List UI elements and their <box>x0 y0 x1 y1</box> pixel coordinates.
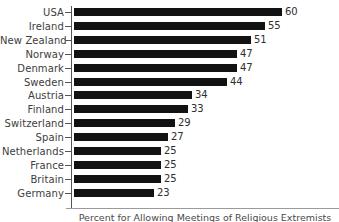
bar <box>74 189 154 197</box>
category-label: Denmark <box>0 62 64 75</box>
axis-tick <box>65 12 71 13</box>
bar <box>74 64 237 72</box>
bar-value-label: 25 <box>164 173 177 186</box>
bar-row: USA60 <box>0 6 339 19</box>
bar-value-label: 34 <box>195 89 208 102</box>
bar-value-label: 33 <box>191 103 204 116</box>
axis-tick <box>65 40 71 41</box>
plot-area: USA60Ireland55New Zealand51Norway47Denma… <box>0 0 339 207</box>
category-label: Austria <box>0 89 64 102</box>
axis-tick <box>65 109 71 110</box>
bar-row: Netherlands25 <box>0 145 339 158</box>
bar <box>74 78 227 86</box>
bar <box>74 133 168 141</box>
bar <box>74 161 161 169</box>
category-label: Germany <box>0 187 64 200</box>
bar-value-label: 55 <box>268 20 281 33</box>
bar-value-label: 51 <box>254 34 267 47</box>
category-label: Switzerland <box>0 117 64 130</box>
axis-tick <box>65 137 71 138</box>
bar-value-label: 25 <box>164 159 177 172</box>
axis-tick <box>65 82 71 83</box>
bar-value-label: 23 <box>157 187 170 200</box>
bar-value-label: 29 <box>178 117 191 130</box>
axis-bottom-rule <box>66 208 339 209</box>
category-label: Norway <box>0 48 64 61</box>
bar-row: Ireland55 <box>0 20 339 33</box>
axis-tick <box>65 165 71 166</box>
bar-row: Germany23 <box>0 187 339 200</box>
bar-row: New Zealand51 <box>0 34 339 47</box>
axis-tick <box>65 123 71 124</box>
chart-caption: Percent for Allowing Meetings of Religio… <box>71 211 339 222</box>
bar-value-label: 25 <box>164 145 177 158</box>
bar-row: Switzerland29 <box>0 117 339 130</box>
bar <box>74 105 188 113</box>
category-label: Spain <box>0 131 64 144</box>
axis-tick <box>65 179 71 180</box>
bar-row: Britain25 <box>0 173 339 186</box>
bar-value-label: 60 <box>285 6 298 19</box>
category-label: France <box>0 159 64 172</box>
axis-tick <box>65 26 71 27</box>
category-label: Britain <box>0 173 64 186</box>
bar <box>74 91 192 99</box>
bar-chart: USA60Ireland55New Zealand51Norway47Denma… <box>0 0 339 222</box>
bar-row: France25 <box>0 159 339 172</box>
category-label: Netherlands <box>0 145 64 158</box>
bar-value-label: 27 <box>171 131 184 144</box>
category-label: Ireland <box>0 20 64 33</box>
axis-tick <box>65 193 71 194</box>
category-label: Finland <box>0 103 64 116</box>
bar-value-label: 47 <box>240 62 253 75</box>
bar-value-label: 47 <box>240 48 253 61</box>
axis-tick <box>65 95 71 96</box>
bar-row: Sweden44 <box>0 76 339 89</box>
bar <box>74 22 265 30</box>
bar <box>74 175 161 183</box>
category-label: USA <box>0 6 64 19</box>
bar <box>74 36 251 44</box>
axis-tick <box>65 68 71 69</box>
bar-row: Spain27 <box>0 131 339 144</box>
bar-value-label: 44 <box>230 76 243 89</box>
bar-row: Norway47 <box>0 48 339 61</box>
axis-tick <box>65 151 71 152</box>
category-label: Sweden <box>0 76 64 89</box>
bar-row: Denmark47 <box>0 62 339 75</box>
bar-row: Finland33 <box>0 103 339 116</box>
axis-tick <box>65 54 71 55</box>
bar <box>74 8 282 16</box>
bar <box>74 147 161 155</box>
bar <box>74 119 175 127</box>
bar-row: Austria34 <box>0 89 339 102</box>
bar <box>74 50 237 58</box>
category-label: New Zealand <box>0 34 64 47</box>
